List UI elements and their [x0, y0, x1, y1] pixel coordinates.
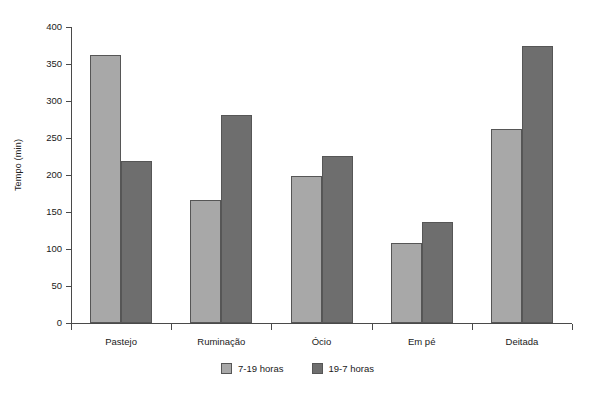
x-axis-category-label: Deitada	[506, 336, 539, 347]
legend-swatch-icon	[312, 363, 323, 374]
bar-em-pé-series-0	[391, 243, 422, 323]
x-axis-tick-mark	[271, 324, 272, 330]
x-axis-tick-mark	[372, 324, 373, 330]
y-axis-tick-label: 50	[51, 280, 62, 291]
x-axis-tick-mark	[71, 324, 72, 330]
y-axis-tick: 50	[0, 286, 71, 287]
legend-item: 7-19 horas	[221, 363, 283, 374]
x-axis-category-label: Ócio	[312, 336, 332, 347]
bar-pastejo-series-1	[121, 161, 152, 323]
bar-ruminação-series-1	[221, 115, 252, 323]
x-axis-category-label: Pastejo	[105, 336, 137, 347]
bar-chart: Tempo (min) 050100150200250300350400 Pas…	[0, 0, 595, 402]
x-axis-tick-mark	[472, 324, 473, 330]
y-axis-tick: 250	[0, 138, 71, 139]
y-axis-tick-label: 300	[46, 95, 62, 106]
plot-area	[71, 27, 572, 323]
y-axis-tick-label: 250	[46, 132, 62, 143]
bar-ruminação-series-0	[190, 200, 221, 323]
x-axis-tick-mark	[171, 324, 172, 330]
legend-item: 19-7 horas	[312, 363, 374, 374]
legend-swatch-icon	[221, 363, 232, 374]
y-axis-tick: 400	[0, 27, 71, 28]
bar-pastejo-series-0	[90, 55, 121, 323]
y-axis-tick-label: 100	[46, 243, 62, 254]
y-axis-tick: 300	[0, 101, 71, 102]
bar-deitada-series-0	[491, 129, 522, 323]
bar-ócio-series-0	[291, 176, 322, 323]
y-axis-tick: 0	[0, 323, 71, 324]
y-axis-tick-label: 0	[57, 317, 62, 328]
y-axis-tick-label: 150	[46, 206, 62, 217]
y-axis-tick-label: 400	[46, 21, 62, 32]
y-axis-tick: 150	[0, 212, 71, 213]
y-axis-tick-label: 350	[46, 58, 62, 69]
x-axis-tick-mark	[572, 324, 573, 330]
bar-ócio-series-1	[322, 156, 353, 323]
y-axis-tick: 200	[0, 175, 71, 176]
legend-label: 19-7 horas	[329, 363, 374, 374]
y-axis-tick: 100	[0, 249, 71, 250]
x-axis-category-label: Em pé	[408, 336, 435, 347]
x-axis-line	[71, 323, 572, 324]
y-axis-tick: 350	[0, 64, 71, 65]
y-axis-title: Tempo (min)	[13, 115, 23, 215]
y-axis-tick-label: 200	[46, 169, 62, 180]
bar-deitada-series-1	[522, 46, 553, 323]
chart-legend: 7-19 horas19-7 horas	[0, 363, 595, 374]
x-axis-category-label: Ruminação	[197, 336, 245, 347]
bar-em-pé-series-1	[422, 222, 453, 323]
legend-label: 7-19 horas	[238, 363, 283, 374]
